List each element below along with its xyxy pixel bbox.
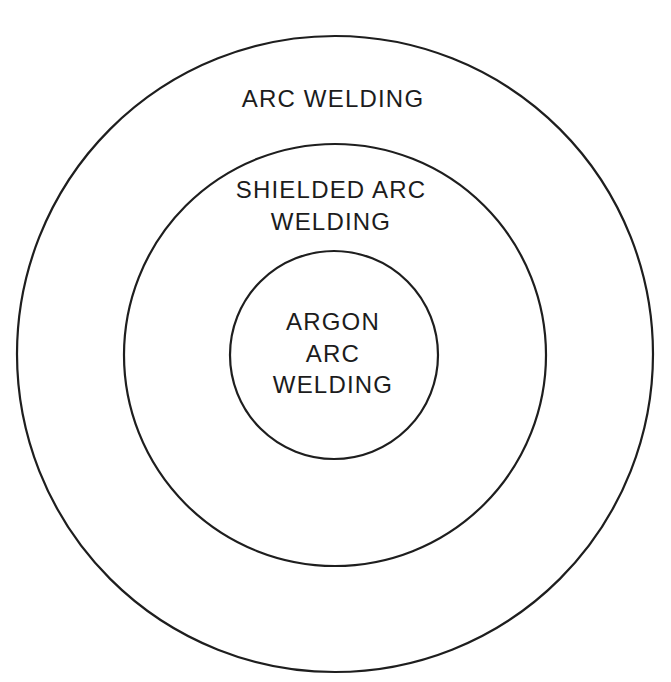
inner-label-line-3: WELDING <box>273 371 393 398</box>
inner-label-line-1: ARGON <box>286 308 380 335</box>
middle-label-line-1: SHIELDED ARC <box>236 176 426 203</box>
middle-label-line-2: WELDING <box>271 208 391 235</box>
outer-label-line-1: ARC WELDING <box>242 85 425 112</box>
inner-label-line-2: ARC <box>306 340 360 367</box>
concentric-welding-diagram: ARC WELDING SHIELDED ARC WELDING ARGON A… <box>0 0 671 682</box>
